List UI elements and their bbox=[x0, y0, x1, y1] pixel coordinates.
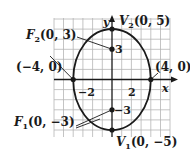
tick-x-neg2: −2 bbox=[78, 86, 95, 99]
tick-y-neg3: −3 bbox=[114, 104, 131, 117]
y-axis-label: y bbox=[102, 16, 111, 29]
label-V2: V2(0, 5) bbox=[119, 14, 170, 30]
tick-x-2: 2 bbox=[128, 86, 136, 99]
point-left-vertex bbox=[71, 77, 76, 82]
x-axis-label: x bbox=[161, 82, 169, 95]
label-F2: F2(0, 3) bbox=[25, 28, 77, 44]
ellipse-diagram: y x −2 2 3 −3 F2(0, 3) V2(0, 5) (−4, 0) … bbox=[0, 0, 190, 160]
point-F2 bbox=[109, 47, 114, 52]
point-right-vertex bbox=[148, 77, 153, 82]
y-axis-arrow-icon bbox=[109, 15, 115, 22]
point-V1 bbox=[109, 127, 114, 132]
tick-y-3: 3 bbox=[115, 43, 123, 56]
point-V2 bbox=[109, 26, 114, 31]
label-left-vertex: (−4, 0) bbox=[16, 60, 62, 74]
label-right-vertex: (4, 0) bbox=[155, 60, 190, 74]
x-axis-arrow-icon bbox=[171, 77, 178, 83]
label-V1: V1(0, −5) bbox=[116, 135, 177, 151]
label-F1: F1(0, −3) bbox=[13, 115, 75, 131]
